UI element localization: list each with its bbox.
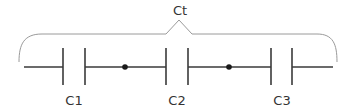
capacitor-c1: C1 xyxy=(63,48,85,108)
capacitor-c3: C3 xyxy=(271,48,292,108)
capacitor-c2: C2 xyxy=(166,48,188,108)
total-capacitance-bracket xyxy=(19,20,337,62)
junction-node-2 xyxy=(226,64,232,70)
junction-node-1 xyxy=(122,64,128,70)
series-capacitor-diagram: Ct C1 C2 C3 xyxy=(0,0,351,112)
capacitor-c2-label: C2 xyxy=(168,93,185,108)
capacitor-c3-label: C3 xyxy=(273,93,290,108)
total-capacitance-label: Ct xyxy=(173,3,187,18)
capacitor-c1-label: C1 xyxy=(65,93,82,108)
